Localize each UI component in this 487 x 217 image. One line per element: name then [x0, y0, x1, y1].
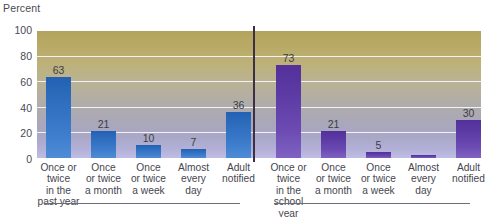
y-tick-40: 40: [2, 103, 32, 114]
category-label-school-year-3: Almost every day: [400, 162, 447, 196]
group-divider: [253, 26, 255, 162]
category-label-past-year-0: Once or twice in the past year: [35, 162, 82, 208]
y-tick-0: 0: [2, 154, 32, 165]
y-tick-80: 80: [2, 51, 32, 62]
bar-past-year-2: [136, 145, 161, 158]
category-label-past-year-2: Once or twice a week: [125, 162, 172, 196]
y-tick-60: 60: [2, 77, 32, 88]
bar-past-year-0: [46, 77, 71, 158]
bar-school-year-3: [411, 155, 436, 158]
bar-school-year-4: [456, 120, 481, 158]
bar-school-year-0: [276, 65, 301, 158]
bar-value-past-year-1: 21: [79, 119, 128, 130]
bar-past-year-1: [91, 131, 116, 158]
y-tick-20: 20: [2, 128, 32, 139]
bar-value-past-year-0: 63: [34, 65, 83, 76]
group-bracket-school-year: [274, 203, 470, 204]
category-label-school-year-0: Once or twice in the school year: [265, 162, 312, 217]
bar-value-past-year-3: 7: [169, 137, 218, 148]
bar-past-year-3: [181, 149, 206, 158]
category-label-past-year-1: Once or twice a month: [80, 162, 127, 196]
category-label-school-year-2: Once or twice a week: [355, 162, 402, 196]
category-label-past-year-4: Adult notified: [215, 162, 262, 185]
gridline-60: [37, 81, 481, 82]
y-tick-100: 100: [2, 25, 32, 36]
gridline-100: [37, 30, 481, 31]
bar-value-school-year-0: 73: [264, 53, 313, 64]
y-axis-title: Percent: [3, 2, 40, 14]
bar-past-year-4: [226, 112, 251, 158]
category-label-school-year-4: Adult notified: [445, 162, 487, 185]
bar-value-school-year-1: 21: [309, 119, 358, 130]
bar-value-past-year-4: 36: [214, 100, 263, 111]
plot-area: [37, 30, 481, 158]
bar-value-school-year-4: 30: [444, 108, 487, 119]
category-label-school-year-1: Once or twice a month: [310, 162, 357, 196]
bar-value-school-year-2: 5: [354, 140, 403, 151]
gridline-80: [37, 56, 481, 57]
bar-school-year-1: [321, 131, 346, 158]
bar-value-past-year-2: 10: [124, 133, 173, 144]
category-label-past-year-3: Almost every day: [170, 162, 217, 196]
bar-chart: Percent 100 80 60 40 20 0 63211073673215…: [0, 0, 487, 217]
bar-school-year-2: [366, 152, 391, 158]
group-bracket-past-year: [44, 203, 240, 204]
